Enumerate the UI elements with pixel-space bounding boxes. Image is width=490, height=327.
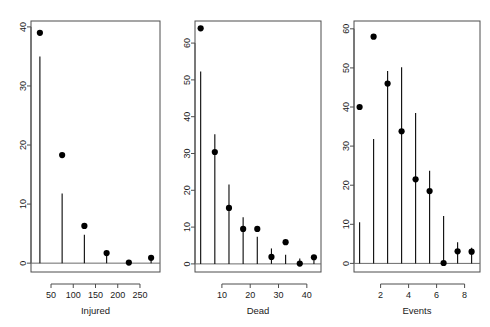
x-axis-title: Events: [402, 305, 431, 316]
x-tick-label: 30: [274, 290, 284, 300]
x-tick-label: 150: [88, 290, 103, 300]
chart-panel-events: 01020304050602468Events: [325, 0, 490, 327]
plot-frame: [195, 21, 321, 272]
data-point: [268, 254, 274, 260]
y-tick-label: 20: [182, 185, 192, 195]
y-tick-label: 10: [18, 199, 28, 209]
data-point: [148, 255, 154, 261]
y-tick-label: 40: [18, 22, 28, 32]
y-tick-label: 0: [18, 261, 28, 266]
y-tick-label: 10: [182, 222, 192, 232]
data-point: [212, 149, 218, 155]
x-axis-title: Dead: [247, 305, 270, 316]
plot-area-injured: 01020304050100150200250Injured: [0, 0, 167, 327]
x-tick-label: 2: [378, 290, 383, 300]
x-tick-label: 200: [110, 290, 125, 300]
x-tick-label: 20: [245, 290, 255, 300]
data-point: [441, 260, 447, 266]
data-point: [385, 80, 391, 86]
x-axis-title: Injured: [81, 305, 110, 316]
y-tick-label: 0: [341, 261, 351, 266]
plot-area-events: 01020304050602468Events: [325, 0, 490, 327]
data-point: [59, 152, 65, 158]
data-point: [469, 249, 475, 255]
data-point: [198, 25, 204, 31]
x-tick-label: 40: [302, 290, 312, 300]
data-point: [311, 254, 317, 260]
y-tick-label: 0: [182, 261, 192, 266]
y-tick-label: 30: [18, 81, 28, 91]
data-point: [37, 30, 43, 36]
data-point: [226, 205, 232, 211]
plot-frame: [354, 21, 480, 272]
x-tick-label: 8: [462, 290, 467, 300]
y-tick-label: 40: [341, 102, 351, 112]
y-tick-label: 50: [341, 63, 351, 73]
data-point: [357, 104, 363, 110]
data-point: [126, 259, 132, 265]
x-tick-label: 6: [434, 290, 439, 300]
chart-panel-dead: 010203040506010203040Dead: [163, 0, 330, 327]
y-tick-label: 20: [18, 140, 28, 150]
plot-frame: [31, 21, 160, 272]
x-tick-label: 10: [217, 290, 227, 300]
x-tick-label: 50: [46, 290, 56, 300]
y-tick-label: 60: [182, 38, 192, 48]
x-tick-label: 100: [66, 290, 81, 300]
y-tick-label: 40: [182, 112, 192, 122]
y-tick-label: 30: [341, 141, 351, 151]
data-point: [413, 176, 419, 182]
data-point: [427, 188, 433, 194]
y-tick-label: 20: [341, 180, 351, 190]
data-point: [297, 260, 303, 266]
x-tick-label: 4: [406, 290, 411, 300]
chart-panel-injured: 01020304050100150200250Injured: [0, 0, 167, 327]
y-tick-label: 10: [341, 219, 351, 229]
plot-area-dead: 010203040506010203040Dead: [163, 0, 330, 327]
data-point: [371, 34, 377, 40]
x-tick-label: 250: [132, 290, 147, 300]
y-tick-label: 60: [341, 24, 351, 34]
data-point: [240, 226, 246, 232]
multi-panel-scatter-figure: 01020304050100150200250Injured 010203040…: [0, 0, 490, 327]
y-tick-label: 30: [182, 148, 192, 158]
data-point: [81, 223, 87, 229]
data-point: [254, 226, 260, 232]
y-tick-label: 50: [182, 75, 192, 85]
data-point: [399, 128, 405, 134]
data-point: [104, 250, 110, 256]
data-point: [283, 239, 289, 245]
data-point: [455, 248, 461, 254]
